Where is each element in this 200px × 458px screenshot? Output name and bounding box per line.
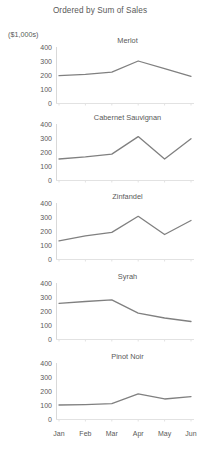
x-tick-apr: Apr bbox=[133, 430, 144, 437]
y-tick-300: 300 bbox=[40, 214, 52, 221]
y-tick-0: 0 bbox=[48, 416, 52, 423]
y-tick-100: 100 bbox=[40, 163, 52, 170]
y-tick-100: 100 bbox=[40, 402, 52, 409]
y-axis-tick-labels: 4003002001000 bbox=[0, 124, 52, 180]
y-tick-400: 400 bbox=[40, 44, 52, 51]
y-axis-tick-labels: 4003002001000 bbox=[0, 363, 52, 419]
y-tick-400: 400 bbox=[40, 360, 52, 367]
y-tick-100: 100 bbox=[40, 86, 52, 93]
y-tick-300: 300 bbox=[40, 135, 52, 142]
panel-title: Syrah bbox=[55, 272, 200, 281]
y-axis-tick-labels: 4003002001000 bbox=[0, 47, 52, 103]
plot-area bbox=[56, 203, 194, 269]
y-axis-tick-labels: 4003002001000 bbox=[0, 283, 52, 339]
chart-title: Ordered by Sum of Sales bbox=[0, 6, 200, 15]
plot-area bbox=[56, 124, 194, 190]
y-tick-0: 0 bbox=[48, 256, 52, 263]
x-tick-jun: Jun bbox=[185, 430, 196, 437]
y-tick-0: 0 bbox=[48, 177, 52, 184]
series-line-1 bbox=[56, 124, 194, 190]
x-tick-may: May bbox=[158, 430, 171, 437]
y-tick-300: 300 bbox=[40, 374, 52, 381]
series-line-3 bbox=[56, 283, 194, 349]
panel-title: Merlot bbox=[55, 36, 200, 45]
y-tick-100: 100 bbox=[40, 242, 52, 249]
series-line-4 bbox=[56, 363, 194, 429]
trellis-line-chart: Ordered by Sum of Sales ($1,000s) Merlot… bbox=[0, 0, 200, 458]
y-tick-400: 400 bbox=[40, 280, 52, 287]
panel-title: Zinfandel bbox=[55, 192, 200, 201]
x-tick-mar: Mar bbox=[106, 430, 118, 437]
y-tick-300: 300 bbox=[40, 58, 52, 65]
y-axis-tick-labels: 4003002001000 bbox=[0, 203, 52, 259]
series-line-0 bbox=[56, 47, 194, 113]
y-tick-200: 200 bbox=[40, 308, 52, 315]
y-tick-400: 400 bbox=[40, 121, 52, 128]
y-tick-100: 100 bbox=[40, 322, 52, 329]
x-tick-jan: Jan bbox=[53, 430, 64, 437]
y-axis-label: ($1,000s) bbox=[8, 30, 38, 39]
plot-area bbox=[56, 47, 194, 113]
series-line-2 bbox=[56, 203, 194, 269]
y-tick-0: 0 bbox=[48, 100, 52, 107]
x-axis-tick-labels: JanFebMarAprMayJun bbox=[56, 430, 194, 442]
x-tick-feb: Feb bbox=[79, 430, 91, 437]
plot-area bbox=[56, 363, 194, 429]
plot-area bbox=[56, 283, 194, 349]
y-tick-200: 200 bbox=[40, 388, 52, 395]
y-tick-400: 400 bbox=[40, 200, 52, 207]
y-tick-200: 200 bbox=[40, 149, 52, 156]
panel-title: Pinot Noir bbox=[55, 352, 200, 361]
y-tick-300: 300 bbox=[40, 294, 52, 301]
panel-title: Cabernet Sauvignan bbox=[55, 113, 200, 122]
y-tick-200: 200 bbox=[40, 72, 52, 79]
y-tick-0: 0 bbox=[48, 336, 52, 343]
y-tick-200: 200 bbox=[40, 228, 52, 235]
